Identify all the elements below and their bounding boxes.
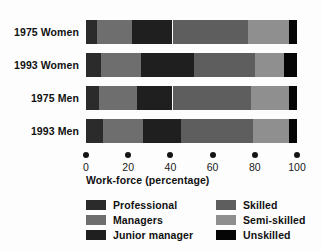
legend-item: Unskilled [216,228,308,241]
bar-row-label: 1975 Men [31,92,79,104]
legend-item: Junior manager [86,228,202,241]
legend-item: Managers [86,213,202,226]
bar-row: 1975 Women [86,20,297,44]
bar-segment-skilled [194,53,255,77]
chart-legend: ProfessionalManagersJunior manager Skill… [86,198,308,241]
bar-segment-semi-skilled [255,53,285,77]
x-axis-title: Work-force (percentage) [86,174,209,186]
legend-item: Semi-skilled [216,213,308,226]
swatch-professional [86,200,106,210]
swatch-unskilled [216,230,236,240]
bar-track [86,20,297,44]
bar-track [86,53,297,77]
x-axis-tick-dot [210,152,216,158]
bar-segment-unskilled [289,20,297,44]
bar-segment-junior-manager [141,53,194,77]
x-axis-tick-dot [294,152,300,158]
bar-segment-skilled [181,119,253,143]
bar-row-label: 1993 Men [31,125,79,137]
bar-segment-semi-skilled [248,20,288,44]
legend-label: Unskilled [243,229,291,241]
swatch-junior-manager [86,230,106,240]
x-axis-tick-label: 80 [249,161,261,173]
bar-segment-junior-manager [132,20,172,44]
bar-segment-junior-manager [143,119,181,143]
bar-segment-skilled [173,86,251,110]
bar-row-label: 1975 Women [14,26,79,38]
bar-row: 1993 Women [86,53,297,77]
bar-segment-unskilled [289,86,297,110]
swatch-semi-skilled [216,215,236,225]
x-axis-tick-dot [252,152,258,158]
x-axis-tick-label: 0 [83,161,89,173]
bar-row: 1993 Men [86,119,297,143]
legend-label: Junior manager [113,229,193,241]
bar-segment-managers [99,86,137,110]
bar-track [86,119,297,143]
legend-label: Skilled [243,199,278,211]
x-axis-tick-dot [167,152,173,158]
bar-segment-skilled [173,20,249,44]
x-axis-tick-label: 60 [207,161,219,173]
bar-segment-unskilled [284,53,297,77]
bar-row: 1975 Men [86,86,297,110]
legend-item: Skilled [216,198,308,211]
legend-label: Professional [113,199,177,211]
x-axis-tick-label: 40 [165,161,177,173]
x-axis: 020406080100 [0,152,322,176]
stacked-bar-chart: 1975 Women1993 Women1975 Men1993 Men 020… [0,0,322,251]
bar-segment-unskilled [289,119,297,143]
swatch-managers [86,215,106,225]
legend-item: Professional [86,198,202,211]
bar-segment-managers [103,119,143,143]
swatch-skilled [216,200,236,210]
bar-segment-professional [86,86,99,110]
x-axis-tick-label: 100 [288,161,306,173]
x-axis-tick-dot [83,152,89,158]
bar-segment-semi-skilled [251,86,289,110]
legend-column-left: ProfessionalManagersJunior manager [86,198,202,241]
x-axis-tick-dot [125,152,131,158]
bar-segment-professional [86,119,103,143]
bar-segment-junior-manager [137,86,173,110]
bar-segment-professional [86,20,97,44]
legend-column-right: SkilledSemi-skilledUnskilled [216,198,308,241]
bar-track [86,86,297,110]
bar-segment-semi-skilled [253,119,289,143]
bar-segment-managers [97,20,133,44]
legend-label: Managers [113,214,163,226]
bar-segment-professional [86,53,101,77]
bar-row-label: 1993 Women [14,59,79,71]
legend-label: Semi-skilled [243,214,305,226]
bar-segment-managers [101,53,141,77]
x-axis-tick-label: 20 [122,161,134,173]
